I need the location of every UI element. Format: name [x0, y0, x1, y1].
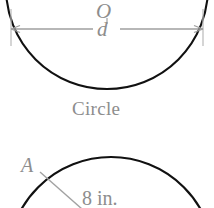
center-point-label-A: A	[21, 155, 33, 175]
diameter-label-d: d	[97, 19, 108, 40]
figure-caption-circle: Circle	[72, 99, 120, 118]
radius-leader-line	[40, 172, 82, 208]
radius-measure-label: 8 in.	[82, 188, 118, 208]
geometry-figure-page: O d Circle A 8 in.	[0, 0, 214, 208]
